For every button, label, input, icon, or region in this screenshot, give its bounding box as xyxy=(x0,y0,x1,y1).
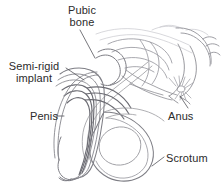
testis-outline xyxy=(95,122,145,169)
penis-contour-2 xyxy=(58,74,100,179)
crus-outline xyxy=(122,70,177,100)
label-penis: Penis xyxy=(14,110,58,122)
glans-outline xyxy=(58,137,78,181)
penis-dorsal-outline xyxy=(60,68,104,178)
urethra-outline xyxy=(82,62,152,162)
pubic-bone-outline xyxy=(96,49,126,86)
sacrum-outline xyxy=(176,28,220,66)
label-semi-rigid-implant: Semi-rigid implant xyxy=(2,60,66,84)
semi-rigid-implant-rod xyxy=(62,85,94,175)
label-scrotum: Scrotum xyxy=(166,152,220,164)
anal-sphincter-hatching xyxy=(169,76,193,100)
anatomy-figure: Pubic bone Semi-rigid implant Penis Anus… xyxy=(0,0,223,188)
label-anus: Anus xyxy=(168,110,208,122)
label-pubic-bone: Pubic bone xyxy=(56,4,108,28)
leader-line-anus xyxy=(180,96,188,108)
leader-line-pubic-bone xyxy=(80,30,95,58)
leader-line-scrotum xyxy=(152,157,164,166)
